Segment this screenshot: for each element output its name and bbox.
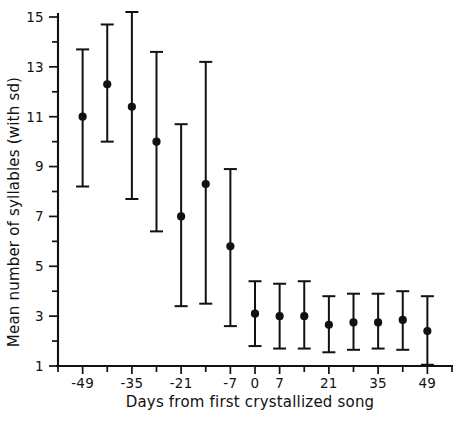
x-tick-label: 35 xyxy=(369,375,387,391)
x-tick-label: -7 xyxy=(223,375,237,391)
y-axis-title: Mean number of syllables (with sd) xyxy=(5,77,23,347)
y-tick-label: 7 xyxy=(35,208,44,224)
data-point-group xyxy=(273,284,286,349)
data-point-group xyxy=(175,124,188,306)
x-axis-title: Days from first crystallized song xyxy=(126,393,375,411)
x-tick-label: 49 xyxy=(418,375,436,391)
data-point-group xyxy=(150,52,163,231)
data-point-group xyxy=(322,296,335,352)
scatter-plot-with-error-bars: 13579111315 -49-35-21-707213549 Mean num… xyxy=(0,0,457,422)
x-tick-label: -49 xyxy=(71,375,94,391)
data-point-group xyxy=(101,24,114,141)
data-point-marker xyxy=(202,180,210,188)
y-tick-label: 1 xyxy=(35,358,44,374)
data-point-marker xyxy=(177,212,185,220)
data-series xyxy=(76,12,434,365)
x-tick-label: -35 xyxy=(120,375,143,391)
data-point-group xyxy=(249,281,262,346)
data-point-marker xyxy=(79,113,87,121)
data-point-group xyxy=(298,281,311,348)
data-point-marker xyxy=(276,312,284,320)
x-tick-label: -21 xyxy=(170,375,193,391)
data-point-marker xyxy=(226,242,234,250)
data-point-marker xyxy=(251,310,259,318)
data-point-marker xyxy=(103,80,111,88)
x-tick-label: 0 xyxy=(251,375,260,391)
chart-figure: 13579111315 -49-35-21-707213549 Mean num… xyxy=(0,0,457,422)
data-point-marker xyxy=(300,312,308,320)
y-tick-label: 13 xyxy=(26,59,44,75)
y-tick-label: 11 xyxy=(26,109,44,125)
data-point-group xyxy=(199,62,212,304)
data-point-group xyxy=(396,291,409,350)
y-tick-label: 9 xyxy=(35,158,44,174)
data-point-marker xyxy=(152,138,160,146)
data-point-group xyxy=(76,49,89,186)
x-tick-label: 21 xyxy=(320,375,338,391)
y-axis-ticks: 13579111315 xyxy=(26,9,58,374)
data-point-group xyxy=(224,169,237,326)
data-point-marker xyxy=(374,318,382,326)
data-point-marker xyxy=(325,321,333,329)
data-point-marker xyxy=(349,318,357,326)
data-point-group xyxy=(421,296,434,365)
data-point-group xyxy=(372,294,385,349)
y-tick-label: 15 xyxy=(26,9,44,25)
y-tick-label: 5 xyxy=(35,258,44,274)
data-point-group xyxy=(347,294,360,350)
y-tick-label: 3 xyxy=(35,308,44,324)
x-axis-ticks: -49-35-21-707213549 xyxy=(58,366,452,391)
x-tick-label: 7 xyxy=(275,375,284,391)
data-point-group xyxy=(125,12,138,199)
data-point-marker xyxy=(399,316,407,324)
data-point-marker xyxy=(128,103,136,111)
data-point-marker xyxy=(423,327,431,335)
